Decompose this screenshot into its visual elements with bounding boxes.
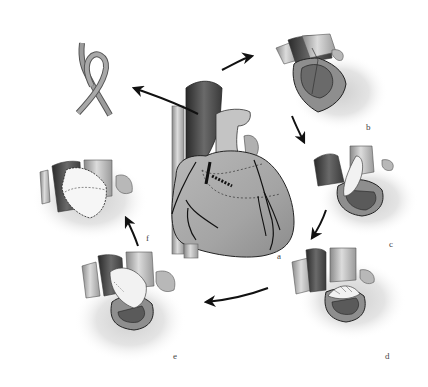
panel-label-b: b — [366, 123, 371, 132]
step-panel-c — [314, 146, 418, 236]
ventricles — [172, 151, 294, 257]
diagram-canvas — [0, 0, 428, 387]
panel-label-c: c — [389, 240, 393, 249]
panel-label-e: e — [173, 352, 177, 361]
arrow-d-to-e — [206, 288, 268, 302]
step-panel-b — [276, 34, 388, 130]
panel-label-d: d — [385, 352, 390, 361]
panel-label-f: f — [146, 234, 149, 243]
ivc — [184, 244, 198, 258]
arrow-a-to-b — [222, 56, 252, 70]
panel-label-a: a — [277, 252, 281, 261]
heart-panel-a — [172, 81, 294, 258]
step-panel-e — [74, 252, 186, 362]
arrow-b-to-c — [292, 116, 304, 142]
step-panel-d — [292, 248, 406, 340]
ribbon-graft — [78, 43, 110, 115]
arrow-c-to-d — [312, 210, 326, 238]
